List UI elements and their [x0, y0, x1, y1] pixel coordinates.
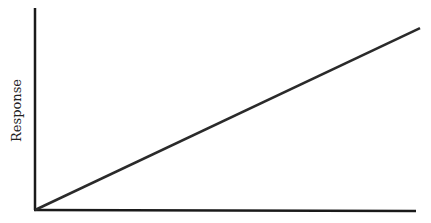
y-axis-label: Response — [2, 70, 32, 150]
response-line — [35, 28, 420, 210]
y-axis-label-text: Response — [10, 78, 25, 141]
x-axis — [34, 210, 416, 211]
line-chart — [0, 0, 431, 223]
